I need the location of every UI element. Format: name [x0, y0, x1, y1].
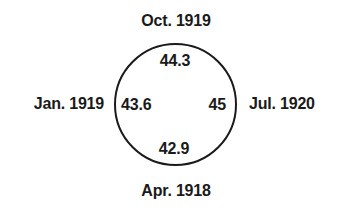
- time-label-right: Jul. 1920: [249, 95, 329, 113]
- value-top: 44.3: [150, 52, 200, 70]
- cyclic-value-diagram: Oct. 1919 Jul. 1920 Apr. 1918 Jan. 1919 …: [0, 0, 340, 211]
- value-bottom: 42.9: [149, 140, 199, 158]
- value-left: 43.6: [121, 96, 161, 114]
- time-label-bottom: Apr. 1918: [134, 182, 218, 200]
- value-right: 45: [196, 96, 226, 114]
- time-label-top: Oct. 1919: [134, 12, 218, 30]
- time-label-left: Jan. 1919: [18, 95, 104, 113]
